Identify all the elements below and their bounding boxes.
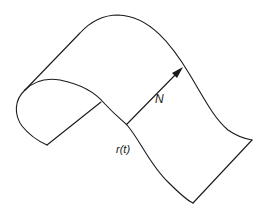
left-edge [16, 90, 47, 145]
curve-label: r(t) [116, 143, 130, 155]
inner-line [47, 102, 101, 145]
normal-label: N [155, 92, 164, 106]
back-edge [25, 15, 252, 140]
right-edge [193, 140, 252, 203]
surface-diagram: N r(t) [0, 0, 269, 222]
normal-vector [127, 70, 180, 124]
curve-r-t [25, 79, 193, 203]
